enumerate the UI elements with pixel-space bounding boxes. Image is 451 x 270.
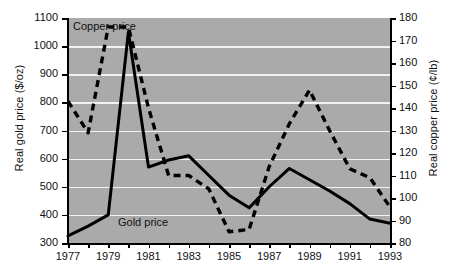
gold-price-line [68, 32, 390, 236]
gold-price-annotation: Gold price [118, 217, 168, 228]
copper-price-annotation: Copper price [73, 21, 136, 32]
chart-figure: Real gold price ($/oz) Real copper price… [0, 0, 451, 270]
series-layer [0, 0, 451, 270]
